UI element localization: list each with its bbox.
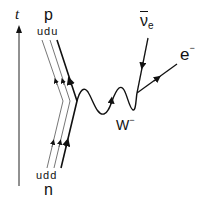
time-axis [16, 25, 22, 186]
proton-quarks: udu [37, 26, 58, 37]
arrow-up-icon [16, 25, 22, 33]
antineutrino-arrow [142, 62, 143, 66]
neutron-label: n [44, 182, 53, 198]
diagram-canvas [0, 0, 205, 202]
w-boson-line [77, 87, 137, 114]
proton-label: p [44, 7, 53, 23]
feynman-diagram: t p udu udd n W− νe e− [0, 0, 205, 202]
time-axis-label: t [15, 7, 19, 22]
w-boson-label: W− [116, 118, 134, 132]
w-arrow [111, 100, 112, 104]
electron-label: e− [180, 46, 195, 63]
neutron-quarks: udd [36, 170, 57, 181]
antineutrino-label: νe [140, 13, 154, 29]
quark-lines [42, 40, 77, 168]
